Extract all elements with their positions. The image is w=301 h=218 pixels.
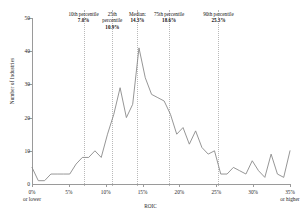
x-axis-tick (106, 184, 107, 187)
x-axis-tick (179, 184, 180, 187)
percentile-label-text: 90th percentile (203, 11, 233, 17)
x-axis-tick (216, 184, 217, 187)
x-axis-tick-label: 15% (127, 189, 159, 196)
y-axis-tick-label: 0 (0, 181, 30, 187)
y-axis-tick-label: 20 (0, 115, 30, 121)
y-axis-tick-label: 40 (0, 48, 30, 54)
x-axis-tick-label: 20% (163, 189, 195, 196)
x-axis-tick (69, 184, 70, 187)
plot-area (32, 18, 290, 184)
x-axis-tick-label: 30% (237, 189, 269, 196)
x-axis-tick-sublabel: or lower (16, 196, 48, 203)
x-axis-tick-sublabel: or higher (274, 196, 301, 203)
x-axis-tick-label: 10% (90, 189, 122, 196)
x-axis-title: ROIC (0, 203, 301, 209)
series-polyline (32, 48, 290, 181)
x-axis-tick-label: 5% (53, 189, 85, 196)
percentile-label-text: 75th percentile (154, 11, 184, 17)
x-axis-tick-label: 0%or lower (16, 189, 48, 202)
y-axis-tick-label: 30 (0, 81, 30, 87)
x-axis-tick-label: 25% (200, 189, 232, 196)
series-line-number-of-industries (32, 18, 290, 184)
y-axis-tick-label: 50 (0, 15, 30, 21)
x-axis-tick (290, 184, 291, 187)
x-axis-line (32, 184, 290, 185)
x-axis-tick (253, 184, 254, 187)
percentile-label-text: 10th percentile (68, 11, 98, 17)
roic-distribution-chart: Number of Industries 10203040500 10th pe… (0, 0, 301, 218)
y-axis-tick-label: 10 (0, 148, 30, 154)
x-axis-tick-label: 35%or higher (274, 189, 301, 202)
x-axis-tick (143, 184, 144, 187)
x-axis-tick (32, 184, 33, 187)
